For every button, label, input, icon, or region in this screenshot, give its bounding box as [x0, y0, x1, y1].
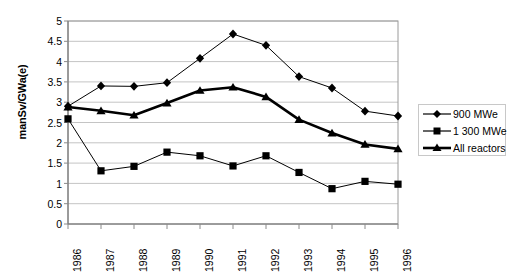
square-marker-icon — [64, 115, 71, 122]
series-1-300-mwe — [64, 115, 401, 192]
y-tick-label: 4 — [36, 57, 62, 67]
diamond-marker-icon — [422, 107, 452, 121]
x-tick-label: 1994 — [336, 249, 346, 272]
x-tick-label: 1991 — [237, 249, 247, 272]
square-marker-icon — [422, 124, 452, 138]
legend-item-all-reactors[interactable]: All reactors — [422, 140, 506, 156]
legend-label: 900 MWe — [453, 108, 498, 120]
x-tick-label: 1993 — [303, 249, 313, 272]
y-tick-label: 3 — [36, 97, 62, 107]
legend: 900 MWe 1 300 MWe All reactors — [418, 104, 506, 156]
diamond-marker-icon — [328, 84, 336, 93]
legend-label: All reactors — [453, 142, 506, 154]
y-tick-label: 1.5 — [36, 158, 62, 168]
series-line — [68, 34, 398, 116]
diamond-marker-icon — [361, 107, 369, 116]
x-tick-label: 1989 — [171, 249, 181, 272]
square-marker-icon — [97, 167, 104, 174]
series-all-reactors — [63, 83, 402, 152]
line-chart: manSv/GWa(e) 5 4.5 4 3.5 3 2.5 2 1.5 1 0… — [0, 0, 521, 279]
diamond-marker-icon — [229, 30, 237, 39]
series-line — [68, 119, 398, 189]
x-tick-label: 1992 — [270, 249, 280, 272]
square-marker-icon — [163, 149, 170, 156]
square-marker-icon — [229, 162, 236, 169]
y-tick-label: 5 — [36, 16, 62, 26]
diamond-marker-icon — [97, 82, 105, 91]
square-marker-icon — [361, 178, 368, 185]
series-900-mwe — [64, 30, 402, 121]
y-tick-label: 1 — [36, 179, 62, 189]
square-marker-icon — [130, 163, 137, 170]
y-tick-label: 0.5 — [36, 199, 62, 209]
square-marker-icon — [328, 185, 335, 192]
legend-item-1300-mwe[interactable]: 1 300 MWe — [422, 123, 507, 139]
y-tick-label: 2 — [36, 138, 62, 148]
y-tick-label: 2.5 — [36, 118, 62, 128]
x-tick-label: 1995 — [369, 249, 379, 272]
square-marker-icon — [262, 152, 269, 159]
y-tick-label: 4.5 — [36, 36, 62, 46]
diamond-marker-icon — [394, 112, 402, 121]
diamond-marker-icon — [163, 78, 171, 87]
legend-label: 1 300 MWe — [453, 125, 507, 137]
x-tick-label: 1986 — [72, 249, 82, 272]
legend-item-900-mwe[interactable]: 900 MWe — [422, 106, 498, 122]
y-tick-label: 0 — [36, 219, 62, 229]
x-tick-label: 1987 — [105, 249, 115, 272]
triangle-marker-icon — [422, 141, 452, 155]
square-marker-icon — [394, 181, 401, 188]
y-tick-label: 3.5 — [36, 77, 62, 87]
square-marker-icon — [295, 169, 302, 176]
series-line — [68, 87, 398, 149]
x-tick-label: 1990 — [204, 249, 214, 272]
square-marker-icon — [196, 152, 203, 159]
x-tick-label: 1988 — [138, 249, 148, 272]
x-tick-label: 1996 — [402, 249, 412, 272]
diamond-marker-icon — [130, 82, 138, 91]
